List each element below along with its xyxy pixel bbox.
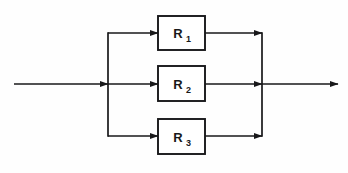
block-r1[interactable]: R 1	[158, 16, 205, 50]
block-group: R 1 R 2 R 3	[158, 16, 205, 154]
block-r2-subscript: 2	[186, 85, 191, 95]
parallel-block-diagram: R 1 R 2 R 3	[0, 0, 348, 173]
diagram-canvas: R 1 R 2 R 3	[0, 0, 348, 173]
block-r3-subscript: 3	[186, 138, 191, 148]
block-r3[interactable]: R 3	[158, 119, 205, 154]
block-r1-subscript: 1	[186, 34, 191, 44]
block-r1-label: R	[173, 26, 183, 41]
block-r2-label: R	[173, 77, 183, 92]
block-r2[interactable]: R 2	[158, 66, 205, 101]
block-r3-label: R	[173, 130, 183, 145]
